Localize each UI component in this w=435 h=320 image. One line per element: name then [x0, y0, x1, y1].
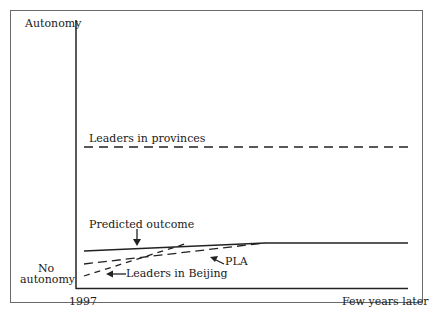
x-axis-start-label: 1997 [69, 296, 97, 308]
label-leaders-in-beijing: Leaders in Beijing [126, 268, 228, 280]
arrow-leaders-in-beijing-icon [106, 271, 126, 278]
label-pla: PLA [225, 256, 248, 268]
line-predicted-outcome [84, 243, 408, 251]
y-axis-bottom-label-line2: autonomy [20, 274, 72, 286]
x-axis-end-label: Few years later [342, 296, 428, 308]
y-axis-top-label: Autonomy [25, 18, 81, 30]
label-predicted-outcome: Predicted outcome [89, 219, 194, 231]
arrow-pla-icon [210, 256, 224, 264]
arrow-predicted-outcome-icon [133, 229, 141, 246]
label-leaders-in-provinces: Leaders in provinces [89, 133, 205, 145]
